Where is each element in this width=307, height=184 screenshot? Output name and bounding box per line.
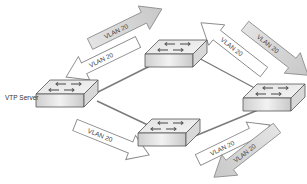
switch-bottom	[138, 119, 200, 146]
switch-right	[243, 84, 305, 111]
vtp-server-label: VTP Server	[5, 94, 38, 101]
switch-vtp-server	[36, 80, 98, 107]
network-diagram: VLAN 20 VLAN 20 VLAN 20 VLAN 20 VLAN 20 …	[0, 0, 307, 184]
switch-top	[145, 40, 207, 67]
vlan-arrow-4: VLAN 20	[237, 16, 307, 86]
link-left-bottom	[97, 101, 150, 126]
